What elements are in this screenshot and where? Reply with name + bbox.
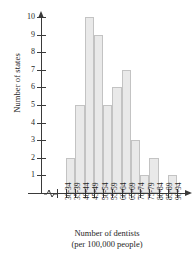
x-axis-tick-label: 85-89 — [166, 160, 174, 200]
y-axis-tick-label-wrap: 9 — [17, 31, 35, 39]
x-axis-arrow-icon — [185, 190, 192, 196]
x-axis-tick-label: 35-39 — [74, 160, 82, 200]
y-axis-tick-label: 7 — [19, 66, 35, 74]
y-axis-tick-label-wrap: 1 — [17, 171, 35, 179]
x-axis-title: Number of dentists (per 100,000 people) — [32, 228, 182, 250]
y-axis-tick-label: 10 — [19, 13, 35, 21]
y-axis-tick-label: 4 — [19, 119, 35, 127]
x-axis-tick-label: 50-54 — [102, 160, 110, 200]
y-axis-tick — [37, 70, 46, 71]
y-axis-tick-label: 1 — [19, 171, 35, 179]
y-axis-tick-label: 6 — [19, 83, 35, 91]
y-axis-tick-label-wrap: 5 — [17, 101, 35, 109]
y-axis-tick-label: 3 — [19, 136, 35, 144]
y-axis-tick-label: 5 — [19, 101, 35, 109]
y-axis-tick-label-wrap: 10 — [17, 13, 35, 21]
axis-break-icon — [44, 188, 57, 198]
x-axis-tick-label: 70-74 — [138, 160, 146, 200]
histogram-figure: Number of states 12345678910 30-3435-394… — [0, 0, 194, 255]
x-axis-tick-label: 40-44 — [83, 160, 91, 200]
y-axis-tick-label-wrap: 7 — [17, 66, 35, 74]
x-axis-title-line1: Number of dentists — [32, 228, 182, 239]
y-axis-tick — [37, 158, 46, 159]
y-axis-tick-label: 2 — [19, 154, 35, 162]
y-axis-tick — [37, 123, 46, 124]
y-axis-tick-label-wrap: 3 — [17, 136, 35, 144]
x-axis-tick — [57, 189, 58, 198]
x-axis-tick-label: 60-64 — [120, 160, 128, 200]
x-axis-title-line2: (per 100,000 people) — [32, 239, 182, 250]
y-axis-tick — [37, 105, 46, 106]
y-axis-tick — [37, 35, 46, 36]
y-axis-tick — [37, 140, 46, 141]
y-axis-tick-label-wrap: 6 — [17, 83, 35, 91]
x-axis-tick-label: 75-79 — [148, 160, 156, 200]
y-axis-tick-label-wrap: 4 — [17, 119, 35, 127]
y-axis-tick-label-wrap: 8 — [17, 48, 35, 56]
x-axis-tick-label: 80-84 — [157, 160, 165, 200]
y-axis-tick — [37, 175, 46, 176]
x-axis-tick-label: 30-34 — [65, 160, 73, 200]
x-axis-tick-label: 90-94 — [175, 160, 183, 200]
y-axis-tick-label: 9 — [19, 31, 35, 39]
y-axis-tick-label-wrap: 2 — [17, 154, 35, 162]
y-axis-tick — [37, 52, 46, 53]
y-axis-tick — [37, 17, 46, 18]
y-axis-tick-label: 8 — [19, 48, 35, 56]
x-axis-tick-label: 55-59 — [111, 160, 119, 200]
y-axis-tick — [37, 87, 46, 88]
x-axis-tick-label: 45-49 — [92, 160, 100, 200]
